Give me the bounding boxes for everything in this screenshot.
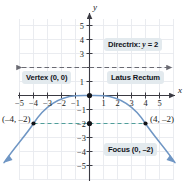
x-tick--2: −2 (57, 99, 66, 108)
y-tick-1: 1 (80, 78, 84, 87)
y-tick--2: −2 (77, 120, 86, 129)
y-tick-3: 3 (80, 50, 84, 59)
point-vertex (87, 93, 92, 98)
callout-directrix-equation: = 2 (146, 40, 158, 49)
x-tick--5: −5 (15, 99, 24, 108)
y-tick-4: 4 (80, 36, 85, 45)
point-focus (87, 121, 92, 126)
callout-latus-rectum: Latus Rectum (107, 71, 164, 84)
callout-directrix: Directrix: y = 2 (104, 38, 162, 51)
y-axis-label: y (92, 2, 97, 12)
x-tick-2: 2 (115, 99, 119, 108)
y-tick--4: −4 (77, 148, 87, 157)
y-tick--5: −5 (77, 162, 86, 171)
parabola-figure: −5 −4 −3 −2 −1 1 2 3 4 5 5 4 3 1 −1 −2 −… (0, 0, 190, 187)
callout-focus: Focus (0, –2) (104, 143, 157, 156)
x-tick--3: −3 (43, 99, 52, 108)
y-tick-5: 5 (80, 22, 84, 31)
callout-directrix-prefix: Directrix: (108, 40, 142, 49)
y-tick--3: −3 (77, 134, 86, 143)
point-latus-rectum-left (31, 121, 35, 125)
x-tick--4: −4 (29, 99, 39, 108)
x-axis-label: x (177, 85, 182, 95)
x-tick-1: 1 (101, 99, 105, 108)
label-left-latus-point: (–4, –2) (2, 115, 31, 124)
coordinate-plane: −5 −4 −3 −2 −1 1 2 3 4 5 5 4 3 1 −1 −2 −… (0, 0, 190, 187)
point-latus-rectum-right (143, 121, 147, 125)
x-tick-labels: −5 −4 −3 −2 −1 1 2 3 4 5 (15, 99, 162, 108)
x-tick-5: 5 (157, 99, 161, 108)
x-tick-3: 3 (129, 99, 133, 108)
callout-vertex: Vertex (0, 0) (22, 71, 71, 84)
label-right-latus-point: (4, –2) (150, 115, 174, 124)
x-tick-4: 4 (143, 99, 148, 108)
y-tick--1: −1 (77, 106, 86, 115)
